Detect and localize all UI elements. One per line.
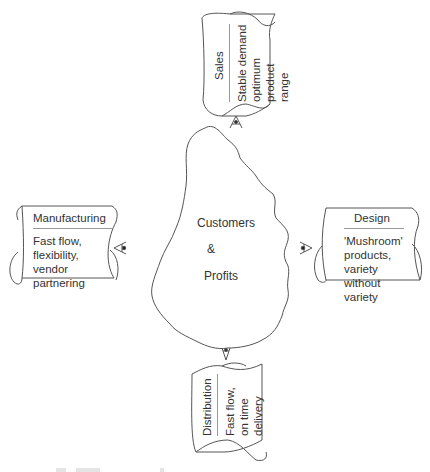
sales-line: Stable demand xyxy=(235,24,249,102)
distribution-line: on time xyxy=(237,374,251,436)
manufacturing-line: Fast flow, xyxy=(33,234,113,248)
center-label-ampersand: & xyxy=(186,242,236,256)
customers-profits-blob xyxy=(152,126,289,348)
design-line: 'Mushroom' xyxy=(344,234,404,248)
distribution-line: Fast flow, xyxy=(223,374,237,436)
sales-line: range xyxy=(277,24,291,102)
distribution-divider xyxy=(217,374,218,436)
manufacturing-line: partnering xyxy=(33,276,113,290)
caption-remnant xyxy=(160,468,164,472)
distribution-text: Distribution Fast flow, on time delivery xyxy=(200,374,265,436)
manufacturing-text: Manufacturing Fast flow, flexibility, ve… xyxy=(33,211,113,290)
distribution-line: delivery xyxy=(251,374,265,436)
eye-icon-top xyxy=(230,116,242,128)
sales-line: product xyxy=(263,24,277,102)
center-label-profits: Profits xyxy=(186,269,256,283)
design-divider xyxy=(344,228,404,229)
sales-divider xyxy=(229,24,230,102)
eye-icon-left xyxy=(114,242,126,254)
sales-text: Sales Stable demand optimum product rang… xyxy=(212,24,291,102)
eye-icon-bottom xyxy=(222,348,230,360)
design-line: variety xyxy=(344,262,404,276)
manufacturing-divider xyxy=(33,228,113,229)
design-text: Design 'Mushroom' products, variety with… xyxy=(344,211,404,304)
manufacturing-title: Manufacturing xyxy=(33,211,113,225)
design-line: variety xyxy=(344,290,404,304)
caption-remnant xyxy=(76,468,100,472)
manufacturing-line: vendor xyxy=(33,262,113,276)
distribution-title: Distribution xyxy=(200,374,214,436)
caption-remnant xyxy=(56,468,66,472)
design-line: without xyxy=(344,276,404,290)
sales-line: optimum xyxy=(249,24,263,102)
eye-icon-right xyxy=(300,242,312,254)
center-label-customers: Customers xyxy=(186,216,266,230)
design-line: products, xyxy=(344,248,404,262)
manufacturing-line: flexibility, xyxy=(33,248,113,262)
design-title: Design xyxy=(344,211,404,225)
sales-title: Sales xyxy=(212,24,226,102)
